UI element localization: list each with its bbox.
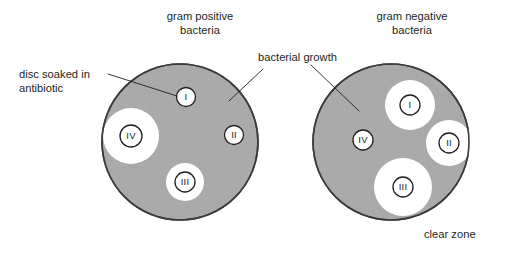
disc-soaked-label-line2: antibiotic (19, 82, 64, 94)
bacterial-growth-label: bacterial growth (258, 51, 337, 63)
left-dish-title-line1: gram positive (167, 10, 234, 22)
gram-negative-dish-disc-label-I: I (409, 99, 412, 110)
right-dish-title-line2: bacteria (392, 24, 433, 36)
right-dish-title-line1: gram negative (377, 10, 448, 22)
diagram-canvas: IIVIIIIIIIVIIIII gram positivebacteriagr… (0, 0, 517, 257)
left-dish-title-line2: bacteria (180, 24, 221, 36)
gram-positive-dish-disc-label-IV: IV (126, 130, 136, 141)
gram-negative-dish-disc-label-III: III (399, 181, 408, 192)
gram-negative-dish-disc-label-II: II (446, 137, 452, 148)
gram-positive-dish-disc-label-I: I (185, 91, 188, 102)
gram-negative-dish: IIVIIIII (313, 64, 472, 220)
disc-soaked-label-line1: disc soaked in (19, 68, 90, 80)
gram-positive-dish: IIVIIIII (102, 64, 258, 220)
clear-zone-label: clear zone (424, 228, 476, 240)
gram-positive-dish-disc-label-II: II (231, 129, 237, 140)
dishes-layer: IIVIIIIIIIVIIIII (102, 64, 472, 220)
gram-positive-dish-disc-label-III: III (181, 176, 190, 187)
antibiotic-sensitivity-diagram: IIVIIIIIIIVIIIII gram positivebacteriagr… (0, 0, 517, 257)
gram-negative-dish-disc-label-IV: IV (358, 134, 368, 145)
